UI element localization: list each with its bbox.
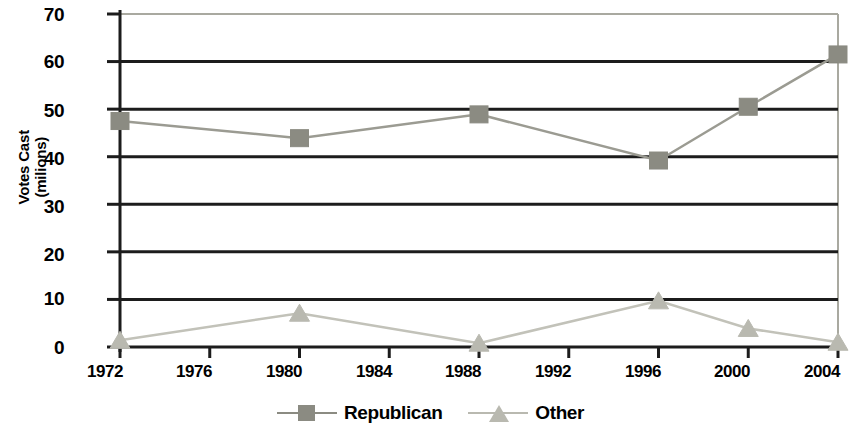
legend-swatch-republican (277, 404, 337, 422)
chart-legend: Republican Other (0, 402, 861, 424)
x-tick-label-2000: 2000 (697, 362, 767, 382)
votes-cast-line-chart: Votes Cast (milions) 70 60 50 40 30 20 1… (0, 0, 861, 437)
series-republican (111, 46, 847, 169)
triangle-marker-icon (489, 405, 509, 422)
legend-item-republican[interactable]: Republican (277, 402, 442, 424)
x-tick-label-1988: 1988 (428, 362, 498, 382)
data-point-republican-1996 (650, 152, 668, 169)
x-tick-label-1992: 1992 (518, 362, 588, 382)
x-tick-label-1996: 1996 (608, 362, 678, 382)
x-tick-label-1980: 1980 (249, 362, 319, 382)
legend-label-republican: Republican (344, 402, 442, 424)
square-marker-icon (298, 405, 315, 421)
legend-label-other: Other (535, 402, 584, 424)
data-point-republican-2000 (739, 98, 757, 115)
x-tick-label-1984: 1984 (339, 362, 409, 382)
x-tick-label-2004: 2004 (787, 362, 857, 382)
data-point-republican-1980 (291, 130, 309, 147)
gridlines (120, 14, 838, 347)
x-tick-label-1972: 1972 (70, 362, 140, 382)
data-point-other-2000 (738, 319, 758, 336)
data-point-other-1980 (290, 304, 310, 321)
legend-swatch-other (468, 404, 528, 422)
y-tick-marks (107, 14, 120, 347)
data-point-republican-2004 (829, 46, 847, 63)
x-tick-label-1976: 1976 (159, 362, 229, 382)
data-point-republican-1972 (111, 113, 129, 130)
legend-item-other[interactable]: Other (468, 402, 584, 424)
data-point-republican-1988 (470, 106, 488, 123)
plot-frame (120, 14, 838, 347)
